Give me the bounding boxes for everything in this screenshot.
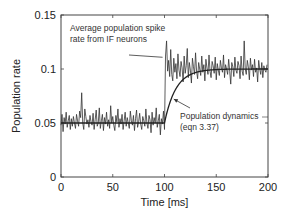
population-rate-chart: 050100150200 00.050.10.15 Average popula… [0, 0, 293, 216]
x-tick-label: 100 [155, 181, 173, 193]
x-tick-label: 200 [259, 181, 277, 193]
x-tick-label: 50 [107, 181, 119, 193]
y-axis-label: Population rate [10, 59, 22, 133]
annotation-line: Population dynamics [180, 111, 258, 121]
x-tick-label: 150 [207, 181, 225, 193]
x-tick-label: 0 [58, 181, 64, 193]
x-axis-label: Time [ms] [141, 196, 189, 208]
annotation-arrow [129, 55, 163, 57]
y-tick-label: 0.1 [41, 63, 56, 75]
y-tick-label: 0.15 [35, 9, 56, 21]
annotation-line: rate from IF neurons [70, 34, 147, 44]
annotation-line: Average population spike [70, 23, 166, 33]
y-tick-label: 0 [50, 171, 56, 183]
y-tick-label: 0.05 [35, 117, 56, 129]
annotation-population-dynamics: Population dynamics(eqn 3.37) [180, 111, 258, 132]
annotation-spike-rate: Average population spikerate from IF neu… [70, 23, 166, 44]
annotation-line: (eqn 3.37) [180, 122, 219, 132]
